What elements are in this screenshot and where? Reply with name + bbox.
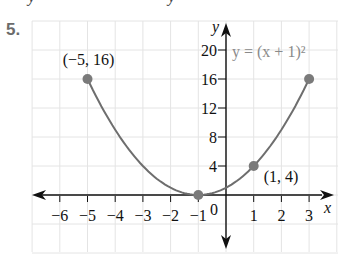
graph-figure: y y 5. yx−6−5−4−3−2−1123048121620(−5, 16… [0, 0, 348, 260]
data-point-marker [193, 190, 203, 200]
x-tick-label: 3 [305, 207, 313, 224]
y-tick-label: 8 [209, 129, 217, 146]
parabola-plot: yx−6−5−4−3−2−1123048121620(−5, 16)(1, 4)… [0, 0, 348, 260]
data-point-marker [249, 161, 259, 171]
x-tick-label: 1 [250, 207, 258, 224]
y-tick-label: 4 [209, 158, 217, 175]
origin-label: 0 [210, 201, 218, 218]
point-label-neg5-16: (−5, 16) [63, 51, 115, 69]
y-tick-label: 20 [201, 42, 217, 59]
y-tick-label: 12 [201, 100, 217, 117]
x-tick-label: −1 [190, 207, 207, 224]
data-point-marker [83, 74, 93, 84]
data-point-marker [304, 74, 314, 84]
y-tick-label: 16 [201, 71, 217, 88]
x-tick-label: −4 [107, 207, 124, 224]
x-tick-label: −6 [51, 207, 68, 224]
x-axis-label: x [323, 199, 331, 216]
x-tick-label: −3 [134, 207, 151, 224]
x-tick-label: −5 [79, 207, 96, 224]
equation-label: y = (x + 1)² [232, 43, 306, 61]
point-label-1-4: (1, 4) [264, 168, 299, 186]
x-tick-label: −2 [162, 207, 179, 224]
x-tick-label: 2 [277, 207, 285, 224]
y-axis-label: y [210, 18, 220, 36]
